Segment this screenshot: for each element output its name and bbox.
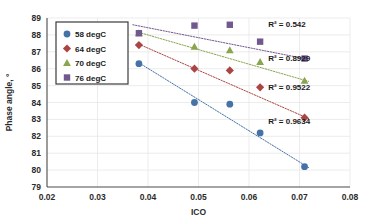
trendline-58-degc [139,63,309,168]
x-tick-label: 0.04 [140,192,157,202]
data-point [191,99,198,106]
y-tick-label: 87 [32,47,42,57]
y-tick-label: 89 [32,13,42,23]
y-tick-label: 88 [32,30,42,40]
data-point [227,22,233,28]
y-tick-label: 85 [32,81,42,91]
legend-label: 76 degC [75,74,106,83]
scatter-plot: 79808182838485868788890.020.030.040.050.… [0,0,374,224]
x-tick-label: 0.07 [291,192,308,202]
x-tick-label: 0.06 [241,192,258,202]
data-point [135,41,143,49]
legend: 58 degC64 degC70 degC76 degC [56,22,128,84]
trendlines [133,25,309,168]
y-tick-label: 83 [32,114,42,124]
data-point [257,38,263,44]
chart-container: 79808182838485868788890.020.030.040.050.… [0,0,374,224]
x-tick-label: 0.03 [89,192,106,202]
data-point [257,130,264,137]
y-axis-ticks: 7980818283848586878889 [32,13,42,192]
y-tick-label: 84 [32,98,42,108]
data-point [301,163,308,170]
data-point [226,66,234,74]
r2-annotations: R² = 0.542R² = 0.8929R² = 0.9522R² = 0.9… [268,20,311,125]
data-point [256,83,264,91]
r2-annotation: R² = 0.9634 [268,117,311,126]
data-point [136,60,143,67]
y-axis-title: Phase angle, ° [4,73,14,131]
data-point [226,46,234,53]
r2-annotation: R² = 0.9522 [268,83,311,92]
y-tick-label: 80 [32,165,42,175]
data-point [190,65,198,73]
series-64-degc [135,41,309,122]
data-points [135,22,309,171]
y-tick-label: 82 [32,131,42,141]
x-tick-label: 0.05 [190,192,207,202]
data-point [191,22,197,28]
r2-annotation: R² = 0.542 [268,20,306,29]
x-axis-title: ICO [191,207,207,217]
data-point [226,101,233,108]
y-tick-label: 79 [32,182,42,192]
x-tick-label: 0.08 [342,192,359,202]
legend-marker-square-icon [64,74,70,80]
legend-label: 70 degC [75,59,106,68]
y-tick-label: 81 [32,148,42,158]
legend-label: 58 degC [75,30,106,39]
data-point [191,43,199,50]
x-tick-label: 0.02 [39,192,56,202]
data-point [256,58,264,65]
x-axis-ticks: 0.020.030.040.050.060.070.08 [39,192,359,202]
data-point [136,30,142,36]
y-tick-label: 86 [32,64,42,74]
legend-marker-circle-icon [64,31,71,38]
legend-label: 64 degC [75,45,106,54]
r2-annotation: R² = 0.8929 [268,54,311,63]
